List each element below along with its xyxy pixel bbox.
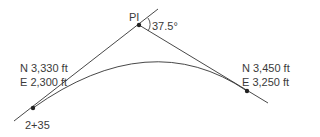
end-northing-label: N 3,450 ft <box>242 62 290 75</box>
pi-label: PI <box>129 11 139 24</box>
start-northing-label: N 3,330 ft <box>20 62 68 75</box>
deflection-angle-arc <box>148 18 150 31</box>
station-label: 2+35 <box>25 119 50 132</box>
end-easting-label: E 3,250 ft <box>242 76 289 89</box>
pc-point <box>31 106 35 110</box>
pt-point <box>245 89 249 93</box>
start-easting-label: E 2,300 ft <box>20 76 67 89</box>
deflection-angle-label: 37.5° <box>152 20 178 33</box>
